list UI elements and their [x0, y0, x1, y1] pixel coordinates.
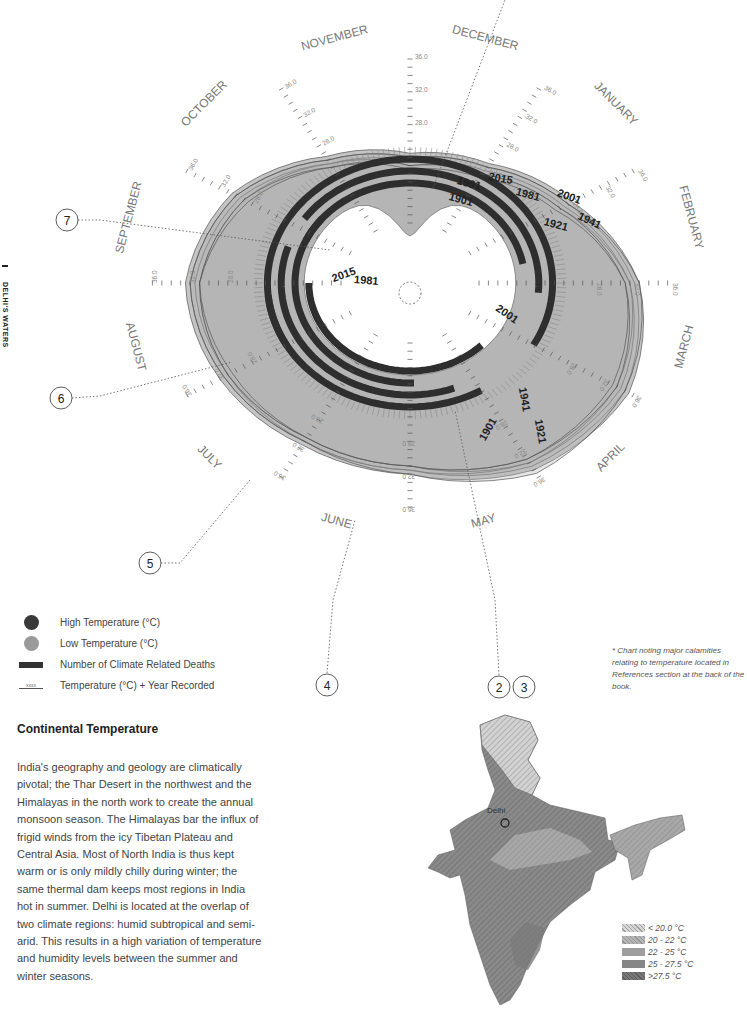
callout-number: 2: [496, 681, 503, 695]
running-head-rule: [2, 265, 8, 267]
axis-tick-label: 36.0: [180, 383, 193, 398]
legend-label: High Temperature (°C): [60, 617, 160, 628]
low-temp-dot-icon: [24, 636, 39, 651]
swatch-icon: [622, 972, 645, 980]
month-label-september: SEPTEMBER: [112, 179, 145, 254]
axis-tick-label: 28.0: [415, 119, 428, 126]
axis-tick-label: 32.0: [189, 270, 196, 283]
legend-label: Low Temperature (°C): [60, 638, 158, 649]
axis-tick-label: 32.0: [402, 473, 415, 480]
chart-footnote: * Chart noting major calamities relating…: [612, 645, 747, 693]
month-label-april: APRIL: [593, 440, 628, 475]
legend-item-high-temp: High Temperature (°C): [16, 612, 215, 633]
axis-tick-label: 36.0: [631, 395, 644, 410]
temp-year-line-icon: xxxx: [19, 682, 43, 689]
map-legend-item: < 20.0 °C: [622, 922, 693, 934]
month-label-october: OCTOBER: [178, 77, 230, 129]
callout-leader: [161, 480, 250, 563]
legend-label: Temperature (°C) + Year Recorded: [60, 680, 214, 691]
axis-tick-label: 28.0: [596, 283, 603, 296]
delhi-label: Delhi: [487, 806, 505, 815]
axis-tick-label: 32.0: [415, 86, 428, 93]
callout-number: 3: [521, 681, 528, 695]
axis-tick-label: 28.0: [402, 440, 415, 447]
axis-tick-label: 28.0: [227, 270, 234, 283]
section-title: Continental Temperature: [17, 722, 158, 736]
northeast-shape: [610, 815, 685, 880]
month-label-february: FEBRUARY: [676, 184, 706, 251]
month-label-june: JUNE: [320, 510, 354, 532]
callout-leader: [72, 362, 232, 398]
swatch-icon: [622, 924, 645, 932]
callout-leader: [327, 520, 355, 673]
axis-tick-label: 36.0: [532, 476, 547, 489]
legend-item-deaths: Number of Climate Related Deaths: [16, 654, 215, 675]
axis-tick-label: 36.0: [402, 506, 415, 513]
axis-tick-label: 32.0: [219, 173, 232, 188]
month-label-january: JANUARY: [591, 79, 640, 128]
legend-item-low-temp: Low Temperature (°C): [16, 633, 215, 654]
deaths-bar-icon: [19, 662, 43, 668]
map-legend-label: 25 - 27.5 °C: [648, 959, 693, 969]
axis-tick-label: 36.0: [272, 470, 287, 483]
axis-tick-label: 32.0: [302, 106, 317, 119]
month-label-november: NOVEMBER: [300, 22, 370, 53]
swatch-icon: [622, 960, 645, 968]
swatch-icon: [622, 936, 645, 944]
map-legend-item: 25 - 27.5 °C: [622, 958, 693, 970]
axis-tick-label: 36.0: [543, 84, 558, 97]
axis-tick-label: 36.0: [637, 168, 650, 183]
axis-tick-label: 28.0: [321, 134, 336, 147]
radial-temperature-chart: 28.032.036.0DECEMBER28.032.036.0JANUARY2…: [0, 0, 742, 700]
axis-tick-label: 32.0: [605, 184, 618, 199]
axis-tick-label: 36.0: [415, 53, 428, 60]
axis-tick-label: 36.0: [283, 77, 298, 90]
axis-tick-label: 28.0: [506, 141, 521, 154]
map-legend-label: < 20.0 °C: [648, 923, 684, 933]
callout-number: 4: [324, 679, 331, 693]
callout-number: 7: [64, 214, 71, 228]
callout-number: 5: [147, 557, 154, 571]
axis-tick-label: 32.0: [634, 283, 641, 296]
year-label: 1981: [354, 273, 379, 287]
map-legend-item: >27.5 °C: [622, 970, 693, 982]
map-legend-label: >27.5 °C: [648, 971, 681, 981]
body-paragraph: India's geography and geology are climat…: [17, 759, 262, 985]
axis-tick-label: 36.0: [672, 283, 679, 296]
month-label-march: MARCH: [671, 324, 696, 370]
axis-tick-label: 32.0: [524, 112, 539, 125]
map-legend-item: 22 - 25 °C: [622, 946, 693, 958]
map-legend-label: 20 - 22 °C: [648, 935, 686, 945]
swatch-icon: [622, 948, 645, 956]
month-label-may: MAY: [469, 511, 497, 531]
month-label-july: JULY: [195, 442, 225, 472]
running-head: DELHI'S WATERS: [2, 282, 9, 348]
chart-legend: High Temperature (°C) Low Temperature (°…: [16, 612, 215, 696]
month-label-august: AUGUST: [123, 321, 150, 374]
month-label-december: DECEMBER: [451, 22, 521, 53]
legend-label: Number of Climate Related Deaths: [60, 659, 215, 670]
map-legend-label: 22 - 25 °C: [648, 947, 686, 957]
axis-tick-label: 36.0: [187, 157, 200, 172]
legend-item-temp-year: xxxx Temperature (°C) + Year Recorded: [16, 675, 215, 696]
high-temp-dot-icon: [24, 615, 39, 630]
map-legend: < 20.0 °C 20 - 22 °C 22 - 25 °C 25 - 27.…: [622, 922, 693, 982]
callout-number: 6: [58, 392, 65, 406]
axis-tick-label: 36.0: [151, 270, 158, 283]
map-legend-item: 20 - 22 °C: [622, 934, 693, 946]
